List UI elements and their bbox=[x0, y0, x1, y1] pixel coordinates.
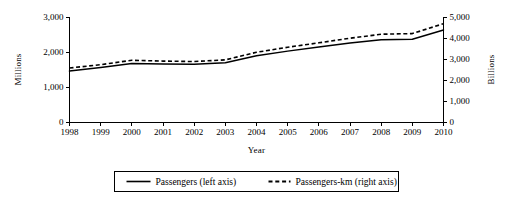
right-axis-tick-label: 0 bbox=[450, 117, 455, 127]
x-axis-tick-label: 2004 bbox=[248, 127, 267, 137]
x-axis-tick-label: 2005 bbox=[279, 127, 298, 137]
right-axis-title: Billions bbox=[486, 54, 496, 84]
x-axis-tick-label: 2000 bbox=[123, 127, 142, 137]
x-axis-tick-label: 1999 bbox=[92, 127, 111, 137]
series-line-passengers-km bbox=[70, 24, 444, 68]
right-axis-tick-label: 1,000 bbox=[450, 96, 471, 106]
right-axis: 01,0002,0003,0004,0005,000Billions bbox=[444, 12, 497, 127]
series-line-passengers bbox=[70, 30, 444, 71]
left-axis-tick-label: 1,000 bbox=[43, 82, 64, 92]
x-axis-tick-label: 2009 bbox=[403, 127, 422, 137]
left-axis-tick-label: 2,000 bbox=[43, 47, 64, 57]
line-chart: 01,0002,0003,000Millions 01,0002,0003,00… bbox=[0, 0, 513, 202]
x-axis: 1998199920002001200220032004200520062007… bbox=[61, 122, 454, 155]
legend-label-passengers-km: Passengers-km (right axis) bbox=[296, 177, 397, 188]
x-axis-tick-label: 2001 bbox=[154, 127, 172, 137]
left-axis: 01,0002,0003,000Millions bbox=[13, 12, 70, 127]
chart-container: 01,0002,0003,000Millions 01,0002,0003,00… bbox=[0, 0, 513, 202]
right-axis-tick-label: 5,000 bbox=[450, 12, 471, 22]
left-axis-tick-label: 0 bbox=[59, 117, 64, 127]
chart-legend: Passengers (left axis)Passengers-km (rig… bbox=[115, 172, 399, 192]
x-axis-tick-label: 2008 bbox=[372, 127, 391, 137]
right-axis-tick-label: 2,000 bbox=[450, 75, 471, 85]
x-axis-tick-label: 1998 bbox=[61, 127, 80, 137]
x-axis-tick-label: 2007 bbox=[341, 127, 360, 137]
x-axis-tick-label: 2006 bbox=[310, 127, 329, 137]
legend-label-passengers: Passengers (left axis) bbox=[156, 177, 237, 188]
series-lines bbox=[70, 24, 444, 71]
right-axis-tick-label: 3,000 bbox=[450, 54, 471, 64]
x-axis-title: Year bbox=[248, 145, 265, 155]
x-axis-tick-label: 2010 bbox=[435, 127, 454, 137]
x-axis-tick-label: 2003 bbox=[216, 127, 235, 137]
x-axis-tick-label: 2002 bbox=[185, 127, 203, 137]
left-axis-title: Millions bbox=[13, 53, 23, 85]
right-axis-tick-label: 4,000 bbox=[450, 33, 471, 43]
left-axis-tick-label: 3,000 bbox=[43, 12, 64, 22]
